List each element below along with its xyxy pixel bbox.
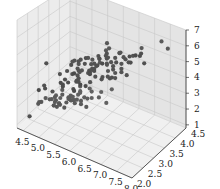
data-point (74, 80, 78, 84)
data-point (111, 64, 115, 68)
data-point (75, 98, 79, 102)
z-tick-label: 5 (194, 57, 200, 67)
data-point (58, 72, 62, 76)
x-tick-label: 6.0 (62, 157, 77, 167)
x-tick-label: 6.5 (77, 164, 92, 174)
data-point (105, 62, 109, 66)
data-point (100, 75, 104, 79)
data-point (88, 80, 92, 84)
scatter-3d-chart: 4.55.05.56.06.57.07.58.0 2.02.53.03.54.0… (0, 0, 220, 189)
z-tick-label: 6 (194, 41, 200, 51)
data-point (88, 70, 92, 74)
data-point (110, 75, 114, 79)
data-point (44, 61, 48, 65)
data-point (142, 61, 146, 65)
data-point (84, 84, 88, 88)
z-tick-label: 7 (194, 25, 200, 35)
data-point (44, 96, 48, 100)
data-point (48, 97, 52, 101)
data-point (105, 57, 109, 61)
y-tick-label: 4.0 (180, 139, 195, 149)
data-point (76, 67, 80, 71)
data-point (105, 52, 109, 56)
x-tick-label: 5.5 (46, 150, 61, 160)
data-point (61, 84, 65, 88)
data-point (78, 89, 82, 93)
data-point (78, 83, 82, 87)
data-point (59, 81, 63, 85)
y-tick-label: 3.5 (169, 149, 184, 159)
data-point (54, 98, 58, 102)
data-point (76, 93, 80, 97)
data-point (65, 69, 69, 73)
data-point (104, 101, 108, 105)
data-point (138, 54, 142, 58)
data-point (119, 62, 123, 66)
y-tick-label: 4.5 (191, 129, 206, 139)
data-point (63, 77, 67, 81)
y-tick-label: 2.5 (148, 169, 163, 179)
data-point (106, 69, 110, 73)
data-point (85, 97, 89, 101)
data-point (140, 46, 144, 50)
data-point (84, 56, 88, 60)
data-point (118, 51, 122, 55)
y-tick-label: 3.0 (159, 159, 174, 169)
data-point (93, 75, 97, 79)
z-axis-ticks: 1234567 (186, 25, 200, 130)
data-point (110, 87, 114, 91)
x-tick-label: 4.5 (15, 137, 30, 147)
data-point (114, 60, 118, 64)
data-point (128, 54, 132, 58)
z-tick-label: 3 (194, 88, 200, 98)
z-tick-label: 2 (194, 104, 200, 114)
data-point (43, 86, 47, 90)
data-point (113, 56, 117, 60)
z-tick-label: 1 (194, 120, 200, 130)
data-point (37, 100, 41, 104)
data-point (107, 46, 111, 50)
data-point (84, 105, 88, 109)
data-point (95, 63, 99, 67)
y-tick-label: 2.0 (137, 179, 152, 189)
data-point (90, 90, 94, 94)
data-point (99, 90, 103, 94)
data-point (72, 89, 76, 93)
data-point (90, 58, 94, 62)
data-point (58, 103, 62, 107)
data-point (69, 63, 73, 67)
data-point (123, 57, 127, 61)
data-point (60, 93, 64, 97)
data-point (64, 100, 68, 104)
data-point (66, 80, 70, 84)
x-tick-label: 7.0 (93, 170, 108, 180)
data-point (105, 41, 109, 45)
data-point (79, 102, 83, 106)
data-point (92, 69, 96, 73)
data-point (134, 53, 138, 57)
data-point (83, 62, 87, 66)
data-point (67, 97, 71, 101)
data-point (72, 59, 76, 63)
x-tick-label: 7.5 (108, 177, 123, 187)
data-point (73, 101, 77, 105)
x-tick-label: 5.0 (31, 143, 46, 153)
data-point (106, 75, 110, 79)
data-point (119, 67, 123, 71)
data-point (50, 89, 54, 93)
data-point (62, 106, 66, 110)
data-point (72, 71, 76, 75)
data-point (90, 96, 94, 100)
data-point (159, 39, 163, 43)
data-point (37, 88, 41, 92)
data-point (166, 47, 170, 51)
data-point (28, 114, 32, 118)
data-point (97, 95, 101, 99)
data-point (77, 59, 81, 63)
data-point (97, 57, 101, 61)
data-point (109, 60, 113, 64)
data-point (100, 62, 104, 66)
data-point (129, 61, 133, 65)
z-tick-label: 4 (194, 72, 200, 82)
data-point (125, 73, 129, 77)
